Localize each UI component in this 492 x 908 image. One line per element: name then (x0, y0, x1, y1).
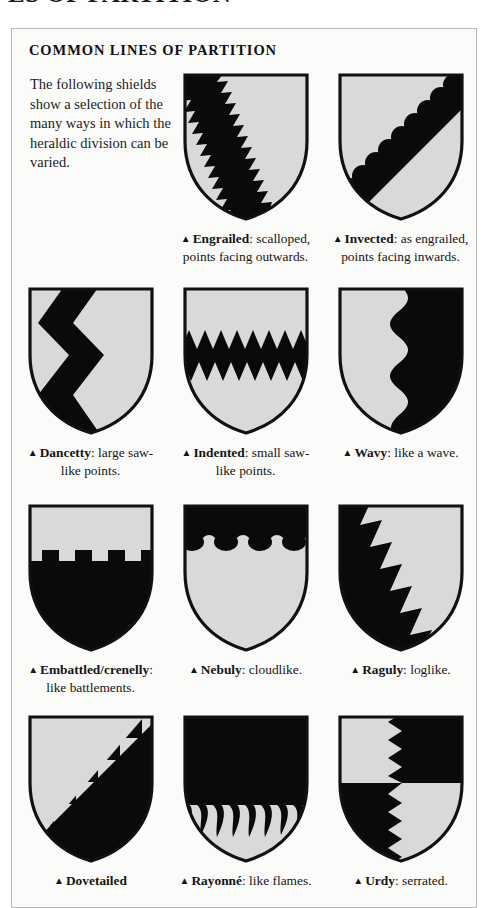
shield-invected (336, 71, 466, 223)
bullet-triangle-icon: ▲ (189, 664, 199, 675)
term-rayonne: Rayonné (191, 873, 242, 888)
desc-urdy: : serrated. (395, 873, 448, 888)
shield-raguly (336, 502, 466, 654)
caption-dancetty: ▲Dancetty: large saw-like points. (13, 444, 168, 479)
bullet-triangle-icon: ▲ (182, 447, 192, 458)
shield-indented (181, 285, 311, 437)
shield-cell-embattled: ▲Embattled/crenelly: like battlements. (13, 502, 168, 696)
shield-cell-raguly: ▲Raguly: loglike. (323, 502, 478, 679)
bullet-triangle-icon: ▲ (353, 875, 363, 886)
desc-nebuly: : cloudlike. (242, 662, 302, 677)
bullet-triangle-icon: ▲ (181, 233, 191, 244)
term-embattled: Embattled/crenelly (40, 662, 149, 677)
shield-cell-wavy: ▲Wavy: like a wave. (323, 285, 478, 462)
caption-nebuly: ▲Nebuly: cloudlike. (168, 661, 323, 679)
caption-rayonne: ▲Rayonné: like flames. (168, 872, 323, 890)
bullet-triangle-icon: ▲ (333, 233, 343, 244)
caption-embattled: ▲Embattled/crenelly: like battlements. (13, 661, 168, 696)
partition-panel: COMMON LINES OF PARTITION The following … (11, 28, 477, 908)
caption-wavy: ▲Wavy: like a wave. (323, 444, 478, 462)
term-wavy: Wavy (354, 445, 387, 460)
bullet-triangle-icon: ▲ (54, 875, 64, 886)
shield-cell-dovetailed: ▲Dovetailed (13, 713, 168, 890)
caption-indented: ▲Indented: small saw-like points. (168, 444, 323, 479)
shield-cell-rayonne: ▲Rayonné: like flames. (168, 713, 323, 890)
shield-rayonne (181, 713, 311, 865)
bullet-triangle-icon: ▲ (28, 447, 38, 458)
bullet-triangle-icon: ▲ (28, 664, 38, 675)
term-indented: Indented (193, 445, 244, 460)
caption-raguly: ▲Raguly: loglike. (323, 661, 478, 679)
shield-urdy (336, 713, 466, 865)
page-heading: ES OF PARTITION (8, 0, 478, 6)
shield-cell-nebuly: ▲Nebuly: cloudlike. (168, 502, 323, 679)
shield-dovetailed (26, 713, 156, 865)
caption-invected: ▲Invected: as engrailed, points facing i… (323, 230, 478, 265)
shield-cell-urdy: ▲Urdy: serrated. (323, 713, 478, 890)
term-invected: Invected (345, 231, 394, 246)
desc-rayonne: : like flames. (242, 873, 312, 888)
shield-engrailed (181, 71, 311, 223)
shield-embattled (26, 502, 156, 654)
bullet-triangle-icon: ▲ (342, 447, 352, 458)
desc-wavy: : like a wave. (387, 445, 458, 460)
shield-cell-engrailed: ▲Engrailed: scalloped, points facing out… (168, 71, 323, 265)
shield-wavy (336, 285, 466, 437)
term-urdy: Urdy (365, 873, 395, 888)
shield-nebuly (181, 502, 311, 654)
shield-cell-dancetty: ▲Dancetty: large saw-like points. (13, 285, 168, 479)
shield-cell-indented: ▲Indented: small saw-like points. (168, 285, 323, 479)
caption-engrailed: ▲Engrailed: scalloped, points facing out… (168, 230, 323, 265)
bullet-triangle-icon: ▲ (179, 875, 189, 886)
term-dovetailed: Dovetailed (66, 873, 127, 888)
term-dancetty: Dancetty (40, 445, 91, 460)
desc-raguly: : loglike. (403, 662, 451, 677)
term-nebuly: Nebuly (201, 662, 242, 677)
caption-dovetailed: ▲Dovetailed (13, 872, 168, 890)
caption-urdy: ▲Urdy: serrated. (323, 872, 478, 890)
shield-dancetty (26, 285, 156, 437)
term-engrailed: Engrailed (193, 231, 250, 246)
term-raguly: Raguly (362, 662, 403, 677)
shield-grid: ▲Engrailed: scalloped, points facing out… (12, 29, 478, 908)
shield-cell-invected: ▲Invected: as engrailed, points facing i… (323, 71, 478, 265)
bullet-triangle-icon: ▲ (350, 664, 360, 675)
